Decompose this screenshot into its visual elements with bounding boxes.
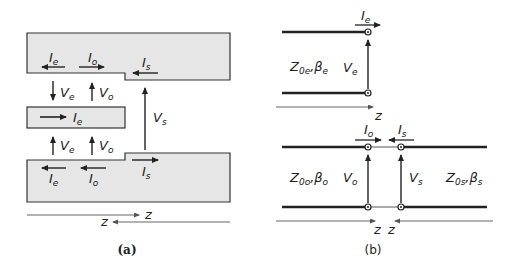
impedance-label-even: Z0e,βe <box>289 59 329 76</box>
coupled-line-diagram: Ie Io Is Ve Vo Ie Vs <box>0 0 513 270</box>
voltage-arrow-vs: Vs <box>145 88 167 150</box>
impedance-label-sum: Z0s,βs <box>445 170 483 187</box>
svg-text:z: z <box>100 214 109 229</box>
voltage-arrow-upper-vo: Vo <box>92 83 114 102</box>
z-axis-label-left: z <box>373 222 382 237</box>
voltage-label-vo: Vo <box>343 170 358 187</box>
svg-text:Vo: Vo <box>99 85 114 102</box>
z-axis-label-right: z <box>387 222 396 237</box>
svg-text:z: z <box>144 207 153 222</box>
svg-text:Vs: Vs <box>153 110 167 127</box>
impedance-label-odd: Z0o,βo <box>289 170 329 187</box>
current-label-is: Is <box>398 122 407 139</box>
odd-sum-line: Io Is Vo Vs Z0o,βo Z0s,βs z z <box>276 122 493 237</box>
caption-a: (a) <box>117 243 136 257</box>
voltage-arrow-lower-vo: Vo <box>92 137 114 155</box>
svg-text:Ve: Ve <box>60 138 75 155</box>
figure-b: Ie Ve Z0e,βe z Io I <box>276 8 493 257</box>
voltage-label-ve: Ve <box>343 60 358 77</box>
current-label-ie: Ie <box>361 8 371 25</box>
z-axis-left: z <box>100 214 230 229</box>
svg-text:Vo: Vo <box>99 138 114 155</box>
figure-a: Ie Io Is Ve Vo Ie Vs <box>27 33 230 257</box>
voltage-label-vs: Vs <box>409 170 423 187</box>
z-axis-label: z <box>374 108 383 123</box>
svg-text:Ve: Ve <box>60 85 75 102</box>
even-mode-line: Ie Ve Z0e,βe z <box>276 8 383 123</box>
voltage-arrow-lower-ve: Ve <box>53 137 75 155</box>
z-axis-right: z <box>27 207 153 222</box>
current-label-io: Io <box>364 122 374 139</box>
caption-b: (b) <box>365 243 382 257</box>
voltage-arrow-upper-ve: Ve <box>53 81 75 102</box>
